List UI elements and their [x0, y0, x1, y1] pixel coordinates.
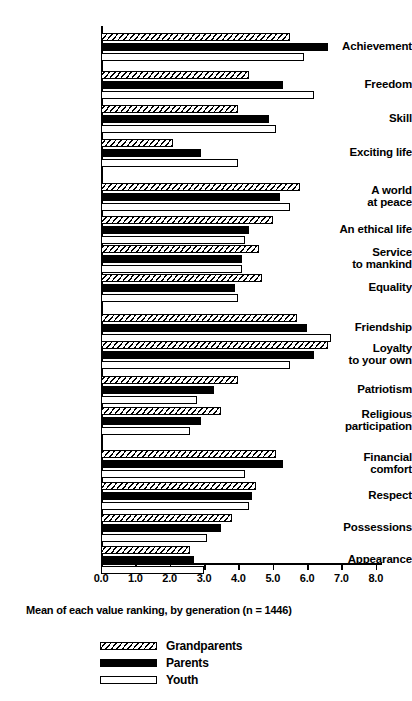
bar-parents [101, 417, 201, 425]
bar-youth [101, 294, 238, 302]
x-axis-tick-label: 3.0 [197, 572, 212, 584]
bar-youth [101, 125, 276, 133]
bar-youth [101, 203, 290, 211]
bar-parents [101, 556, 194, 564]
legend-swatch-parents [100, 659, 157, 667]
bar-grandparents [101, 33, 290, 41]
legend-item-parents: Parents [100, 655, 242, 670]
bar-youth [101, 427, 190, 435]
bar-grandparents [101, 71, 249, 79]
bar-youth [101, 361, 290, 369]
chart-caption: Mean of each value ranking, by generatio… [26, 604, 292, 616]
bar-youth [101, 396, 197, 404]
bar-grandparents [101, 341, 328, 349]
bar-youth [101, 566, 204, 574]
x-axis-tick-label: 1.0 [128, 572, 143, 584]
bar-youth [101, 53, 304, 61]
bar-parents [101, 460, 283, 468]
bar-parents [101, 149, 201, 157]
bar-parents [101, 255, 242, 263]
bar-grandparents [101, 546, 190, 554]
bar-grandparents [101, 216, 273, 224]
bar-grandparents [101, 514, 232, 522]
bar-grandparents [101, 139, 173, 147]
chart-legend: Grandparents Parents Youth [100, 638, 242, 689]
bar-grandparents [101, 482, 256, 490]
bar-parents [101, 284, 235, 292]
bar-parents [101, 226, 249, 234]
bar-parents [101, 81, 283, 89]
bar-youth [101, 159, 238, 167]
bar-youth [101, 470, 245, 478]
bar-youth [101, 91, 314, 99]
bar-grandparents [101, 245, 259, 253]
bar-youth [101, 534, 207, 542]
bar-youth [101, 265, 242, 273]
bar-grandparents [101, 105, 238, 113]
x-axis-tick [273, 563, 275, 570]
legend-label-parents: Parents [166, 656, 209, 670]
x-axis-tick-label: 5.0 [265, 572, 280, 584]
bar-grandparents [101, 407, 221, 415]
x-axis-tick [307, 563, 309, 570]
bar-parents [101, 43, 328, 51]
x-axis-tick [238, 563, 240, 570]
x-axis-tick-label: 0.0 [94, 572, 109, 584]
x-axis-tick-label: 6.0 [300, 572, 315, 584]
bars-layer [101, 26, 412, 563]
bar-grandparents [101, 314, 297, 322]
legend-label-youth: Youth [166, 673, 198, 687]
bar-parents [101, 386, 214, 394]
legend-item-grandparents: Grandparents [100, 638, 242, 653]
bar-grandparents [101, 183, 300, 191]
bar-parents [101, 351, 314, 359]
x-axis-tick-label: 2.0 [162, 572, 177, 584]
x-axis-tick [204, 563, 206, 570]
bar-parents [101, 324, 307, 332]
bar-grandparents [101, 376, 238, 384]
bar-parents [101, 115, 269, 123]
legend-swatch-grandparents [100, 642, 157, 650]
bar-parents [101, 524, 221, 532]
legend-item-youth: Youth [100, 672, 242, 687]
legend-label-grandparents: Grandparents [166, 639, 242, 653]
x-axis-tick-label: 4.0 [231, 572, 246, 584]
legend-swatch-youth [100, 676, 157, 684]
bar-youth [101, 502, 249, 510]
x-axis-tick-label: 8.0 [368, 572, 383, 584]
bar-parents [101, 492, 252, 500]
bar-youth [101, 236, 245, 244]
bar-parents [101, 193, 280, 201]
x-axis-tick-label: 7.0 [334, 572, 349, 584]
bar-chart: 0.01.02.03.04.05.06.07.08.0 AchievementF… [0, 0, 412, 701]
bar-grandparents [101, 450, 276, 458]
bar-grandparents [101, 274, 262, 282]
